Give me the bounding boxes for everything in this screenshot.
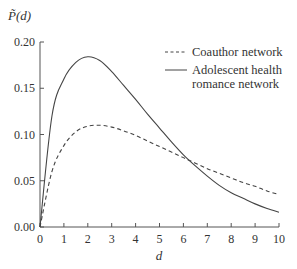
x-tick-label: 5	[157, 232, 163, 246]
line-chart: 0.000.050.100.150.20 012345678910 Coauth…	[0, 0, 297, 269]
x-tick-label: 9	[252, 232, 258, 246]
x-tick-label: 4	[133, 232, 139, 246]
x-tick-label: 10	[273, 232, 285, 246]
y-tick-label: 0.15	[14, 81, 35, 95]
x-tick-label: 3	[109, 232, 115, 246]
legend-label: Coauthor network	[192, 45, 283, 59]
x-tick-label: 0	[37, 232, 43, 246]
x-tick-label: 2	[85, 232, 91, 246]
x-axis-label: d	[156, 248, 163, 263]
legend-label: romance network	[192, 77, 280, 91]
x-tick-label: 7	[204, 232, 210, 246]
y-tick-label: 0.05	[14, 174, 35, 188]
y-axis-label: P̃(d)	[7, 8, 31, 23]
y-tick-label: 0.10	[14, 128, 35, 142]
x-tick-label: 8	[228, 232, 234, 246]
x-tick-label: 6	[180, 232, 186, 246]
coauthor-network-line	[40, 125, 279, 227]
x-tick-label: 1	[61, 232, 67, 246]
x-axis: 012345678910	[37, 223, 285, 246]
legend-label: Adolescent health	[192, 63, 283, 77]
y-axis: 0.000.050.100.150.20	[14, 35, 44, 234]
y-tick-label: 0.20	[14, 35, 35, 49]
legend: Coauthor networkAdolescent healthromance…	[165, 45, 283, 91]
y-tick-label: 0.00	[14, 220, 35, 234]
